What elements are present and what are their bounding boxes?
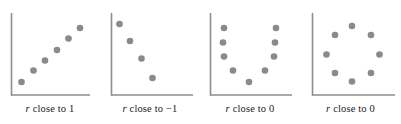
scatter-plot-zero-ring — [300, 0, 401, 104]
data-point — [271, 53, 278, 60]
panel-negative-correlation: r close to −1 — [100, 0, 200, 124]
data-point — [42, 57, 49, 64]
data-point — [77, 25, 84, 32]
correlation-scatterplot-figure: r close to 1 r close to −1 — [0, 0, 401, 124]
panel-positive-correlation: r close to 1 — [0, 0, 100, 124]
data-point — [272, 39, 279, 46]
panel-caption-zero-v: r close to 0 — [200, 103, 300, 114]
data-point — [246, 79, 253, 86]
caption-text: close to 0 — [233, 103, 275, 114]
caption-text: close to 1 — [33, 103, 75, 114]
panel-caption-negative: r close to −1 — [100, 103, 200, 114]
data-point — [368, 32, 375, 39]
scatter-plot-zero-v — [200, 0, 300, 104]
data-point — [368, 70, 375, 77]
panel-caption-positive: r close to 1 — [0, 103, 100, 114]
data-point — [376, 51, 383, 58]
scatter-plot-positive — [0, 0, 100, 104]
data-point — [138, 55, 145, 62]
data-point — [273, 25, 280, 32]
panel-caption-zero-ring: r close to 0 — [300, 103, 401, 114]
data-point — [149, 75, 156, 82]
scatter-plot-negative — [100, 0, 200, 104]
data-point — [220, 39, 227, 46]
panel-zero-correlation-ring: r close to 0 — [300, 0, 401, 124]
data-point — [332, 32, 339, 39]
data-point — [65, 35, 72, 42]
data-point — [30, 67, 37, 74]
data-point — [116, 21, 123, 28]
data-point — [127, 38, 134, 45]
data-points — [116, 21, 156, 82]
data-points — [220, 25, 280, 86]
caption-text: close to −1 — [130, 103, 178, 114]
panel-zero-correlation-v: r close to 0 — [200, 0, 300, 124]
data-points — [18, 25, 83, 86]
data-points — [323, 23, 383, 85]
data-point — [18, 79, 25, 86]
data-point — [262, 67, 269, 74]
data-point — [54, 47, 61, 54]
caption-text: close to 0 — [333, 103, 375, 114]
data-point — [349, 78, 356, 85]
data-point — [323, 51, 330, 58]
data-point — [349, 23, 356, 30]
data-point — [230, 67, 237, 74]
data-point — [221, 25, 228, 32]
data-point — [221, 53, 228, 60]
data-point — [332, 70, 339, 77]
